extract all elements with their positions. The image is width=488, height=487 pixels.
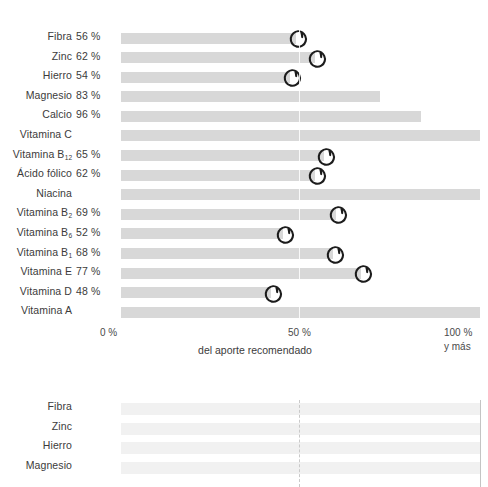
chart-row: Vitamina A <box>0 304 488 324</box>
chart-row: Vitamina D48 % <box>0 285 488 305</box>
row-value-percent: 83 % <box>76 89 114 102</box>
bar-fill <box>121 307 480 318</box>
bar-track <box>121 72 480 83</box>
chart-row: Vitamina B1265 % <box>0 148 488 168</box>
bar-fill <box>121 91 380 102</box>
chart-row: Calcio96 % <box>0 108 488 128</box>
bar-fill <box>121 248 333 259</box>
gridline-50-percent-dashed <box>299 400 300 487</box>
nutrient-coverage-chart-secondary: FibraZincHierroMagnesio <box>0 400 488 478</box>
row-label: Ácido fólico <box>0 167 72 180</box>
axis-tick-0: 0 % <box>100 326 117 339</box>
row-value-percent: 62 % <box>76 50 114 63</box>
bar-fill <box>121 170 315 181</box>
nutrient-coverage-chart: Fibra56 %Zinc62 %Hierro54 %Magnesio83 %C… <box>0 30 488 324</box>
row-label: Vitamina B1 <box>0 246 72 259</box>
row-value-percent: 54 % <box>76 69 114 82</box>
row-label: Fibra <box>0 400 72 413</box>
row-value-percent: 68 % <box>76 246 114 259</box>
chart-right-edge-rule <box>480 400 481 487</box>
bar-track <box>121 33 480 44</box>
row-label: Fibra <box>0 30 72 43</box>
bar-fill <box>121 462 480 474</box>
axis-tick-50: 50 % <box>288 326 311 339</box>
row-label-subscript: 1 <box>68 252 72 259</box>
bar-fill <box>121 189 480 200</box>
row-label: Zinc <box>0 50 72 63</box>
bar-fill <box>121 423 480 435</box>
row-value-percent: 56 % <box>76 30 114 43</box>
chart-row: Fibra <box>0 400 488 420</box>
chart-row: Hierro <box>0 439 488 459</box>
chart-row: Hierro54 % <box>0 69 488 89</box>
row-value-percent: 65 % <box>76 148 114 161</box>
bar-fill <box>121 403 480 415</box>
bar-fill <box>121 111 421 122</box>
bar-track <box>121 189 480 200</box>
row-label: Hierro <box>0 69 72 82</box>
bar-track <box>121 91 480 102</box>
chart-row: Ácido fólico62 % <box>0 167 488 187</box>
row-label: Magnesio <box>0 459 72 472</box>
row-label-subscript: 12 <box>65 154 73 161</box>
bar-track <box>121 228 480 239</box>
row-label: Hierro <box>0 439 72 452</box>
bar-track <box>121 462 480 474</box>
chart-row: Vitamina B269 % <box>0 206 488 226</box>
bar-fill <box>121 228 283 239</box>
bar-track <box>121 442 480 454</box>
bar-track <box>121 403 480 415</box>
chart-row: Vitamina B168 % <box>0 246 488 266</box>
x-axis-caption: del aporte recomendado <box>0 343 488 357</box>
chart-row: Zinc <box>0 420 488 440</box>
bar-fill <box>121 287 271 298</box>
bar-fill <box>121 209 336 220</box>
chart-row: Fibra56 % <box>0 30 488 50</box>
bar-track <box>121 423 480 435</box>
row-label: Vitamina A <box>0 304 72 317</box>
row-label-subscript: 6 <box>68 232 72 239</box>
row-label: Calcio <box>0 108 72 121</box>
chart-row: Vitamina C <box>0 128 488 148</box>
bar-track <box>121 209 480 220</box>
row-label: Niacina <box>0 187 72 200</box>
bar-fill <box>121 442 480 454</box>
row-label: Vitamina E <box>0 265 72 278</box>
chart-row: Vitamina E77 % <box>0 265 488 285</box>
row-label: Zinc <box>0 420 72 433</box>
x-axis: 0 % 50 % 100 % y más del aporte recomend… <box>0 326 488 372</box>
chart-row: Magnesio <box>0 459 488 479</box>
bar-track <box>121 248 480 259</box>
row-label: Vitamina B2 <box>0 206 72 219</box>
gridline-50-percent <box>299 30 300 323</box>
bar-track <box>121 268 480 279</box>
axis-tick-100: 100 % <box>444 326 472 339</box>
row-label: Vitamina B6 <box>0 226 72 239</box>
row-label: Magnesio <box>0 89 72 102</box>
row-value-percent: 69 % <box>76 206 114 219</box>
bar-track <box>121 111 480 122</box>
bar-track <box>121 287 480 298</box>
chart-row: Zinc62 % <box>0 50 488 70</box>
bar-track <box>121 307 480 318</box>
chart-row: Vitamina B652 % <box>0 226 488 246</box>
chart-rows: Fibra56 %Zinc62 %Hierro54 %Magnesio83 %C… <box>0 30 488 324</box>
bar-track <box>121 130 480 141</box>
chart-row: Niacina <box>0 187 488 207</box>
bar-fill <box>121 52 315 63</box>
bar-track <box>121 52 480 63</box>
bar-fill <box>121 150 324 161</box>
row-value-percent: 96 % <box>76 108 114 121</box>
bar-fill <box>121 268 361 279</box>
bar-track <box>121 150 480 161</box>
chart-rows-secondary: FibraZincHierroMagnesio <box>0 400 488 478</box>
row-label: Vitamina D <box>0 285 72 298</box>
row-label-subscript: 2 <box>68 212 72 219</box>
bar-fill <box>121 33 296 44</box>
row-label: Vitamina B12 <box>0 148 72 161</box>
row-value-percent: 48 % <box>76 285 114 298</box>
row-label: Vitamina C <box>0 128 72 141</box>
bar-fill <box>121 72 290 83</box>
row-value-percent: 52 % <box>76 226 114 239</box>
bar-fill <box>121 130 480 141</box>
